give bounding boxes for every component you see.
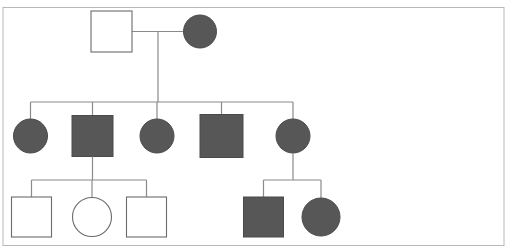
pedigree-canvas [0, 0, 516, 246]
individual-III-2-female-unaffected[interactable] [73, 198, 112, 237]
individual-II-1-female-affected[interactable] [14, 119, 48, 153]
individual-III-3-male-unaffected[interactable] [127, 197, 167, 237]
individual-I-1-male-unaffected[interactable] [91, 11, 132, 52]
individual-II-3-female-affected[interactable] [140, 119, 174, 153]
individual-II-4-male-affected[interactable] [200, 115, 243, 158]
individual-I-2-female-affected[interactable] [184, 15, 217, 48]
sibship-generation-3-right-group [244, 153, 341, 237]
individual-III-4-male-affected[interactable] [244, 197, 284, 237]
individual-II-5-female-affected[interactable] [276, 119, 310, 153]
individual-II-2-male-affected[interactable] [72, 116, 113, 157]
generation-2-group [14, 115, 311, 158]
individual-III-1-male-unaffected[interactable] [12, 197, 52, 237]
pedigree-figure [0, 0, 516, 246]
sibship-generation-2-group [31, 102, 294, 119]
individual-III-5-female-affected[interactable] [302, 198, 340, 236]
generation-1-group [91, 11, 217, 102]
sibship-generation-3-left-group [12, 157, 167, 238]
